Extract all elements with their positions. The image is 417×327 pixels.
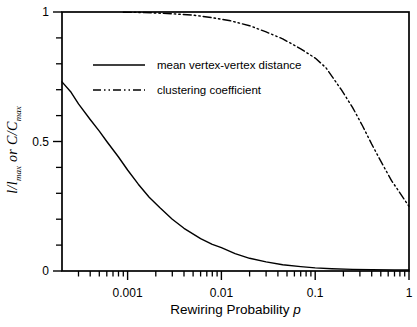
chart-canvas: 0.0010.010.1100.51: [0, 0, 417, 327]
x-tick-label: 1: [406, 286, 413, 300]
y-axis-title-part: or: [5, 145, 20, 166]
legend: mean vertex-vertex distance clustering c…: [92, 52, 301, 102]
dash-dot-dot-line-sample-icon: [92, 84, 146, 96]
chart-figure: 0.0010.010.1100.51 l/lmax or C/Cmax Rewi…: [0, 0, 417, 327]
series-clustering-coefficient: [123, 12, 409, 206]
x-axis-title-text: Rewiring Probability: [170, 302, 293, 317]
y-tick-label: 0: [42, 264, 49, 278]
x-tick-label: 0.01: [210, 286, 234, 300]
legend-item-clustering: clustering coefficient: [92, 77, 301, 102]
plot-frame: [62, 12, 409, 271]
y-tick-label: 0.5: [32, 135, 49, 149]
x-tick-label: 0.001: [113, 286, 143, 300]
legend-item-mean-distance: mean vertex-vertex distance: [92, 52, 301, 77]
solid-line-sample-icon: [92, 59, 146, 71]
x-tick-label: 0.1: [307, 286, 324, 300]
y-axis-title-part: l/l: [5, 181, 20, 194]
y-tick-label: 1: [42, 5, 49, 19]
series-mean-vertex-vertex-distance: [62, 82, 409, 270]
legend-label-mean-distance: mean vertex-vertex distance: [157, 59, 301, 71]
x-axis-title: Rewiring Probability p: [62, 302, 409, 317]
y-axis-title-part: C/C: [5, 121, 20, 145]
y-axis-title-subscript: max: [13, 106, 23, 121]
y-axis-title-subscript: max: [13, 166, 23, 181]
x-axis-title-variable: p: [293, 302, 301, 317]
legend-label-clustering: clustering coefficient: [157, 84, 261, 96]
y-axis-title: l/lmax or C/Cmax: [5, 20, 23, 280]
